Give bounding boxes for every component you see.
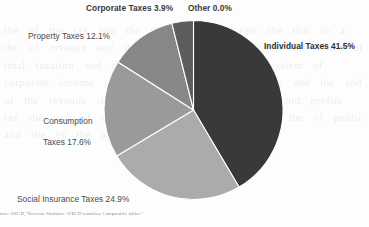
slice-label-corporate-taxes: Corporate Taxes 3.9%	[86, 3, 173, 13]
slice-label-consumption-line-1: Consumption	[43, 116, 92, 126]
pie-slice-group	[104, 20, 283, 199]
chart-page: the of the tax and the OECD average rate…	[0, 0, 369, 227]
slice-label-other: Other 0.0%	[188, 3, 232, 13]
slice-label-consumption-line-2: Taxes 17.6%	[43, 137, 91, 147]
slice-label-property-taxes: Property Taxes 12.1%	[28, 31, 110, 41]
slice-label-individual-taxes: Individual Taxes 41.5%	[264, 41, 355, 51]
slice-label-consumption-taxes: Consumption Taxes 17.6%	[29, 106, 93, 158]
source-note: urce: OECD, "Revenue Statistics - OECD c…	[0, 211, 143, 216]
slice-label-social-insurance-taxes: Social Insurance Taxes 24.9%	[17, 194, 129, 204]
pie-chart: Corporate Taxes 3.9% Other 0.0% Property…	[0, 0, 369, 227]
